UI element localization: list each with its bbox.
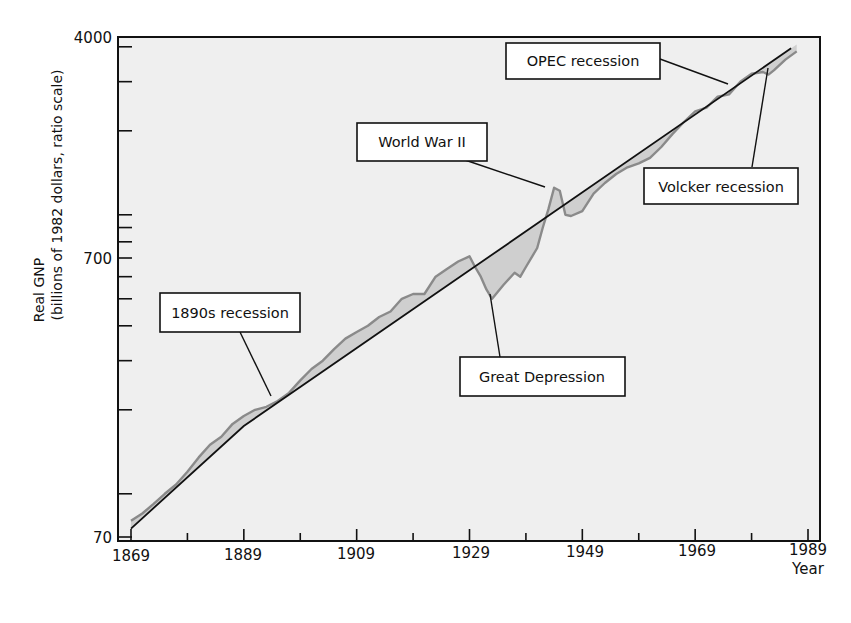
- annotation-volcker: Volcker recession: [644, 168, 798, 204]
- annotation-great-depression: Great Depression: [460, 357, 625, 396]
- x-tick-label-1989: 1989: [789, 541, 827, 559]
- y-tick-label-4000: 4000: [74, 29, 112, 47]
- annotation-1890s: 1890s recession: [160, 293, 300, 332]
- x-tick-label-1929: 1929: [452, 544, 490, 562]
- x-tick-label-1889: 1889: [224, 546, 262, 564]
- y-axis-subtitle: (billions of 1982 dollars, ratio scale): [49, 69, 65, 320]
- x-tick-label-1969: 1969: [678, 542, 716, 560]
- gnp-chart: 4000 700 70 1869 1889 1909 1929 1949 196…: [0, 0, 851, 623]
- svg-text:Great Depression: Great Depression: [479, 369, 605, 385]
- x-axis-title: Year: [791, 560, 825, 578]
- svg-text:1890s recession: 1890s recession: [171, 305, 289, 321]
- y-axis-title: Real GNP: [31, 258, 47, 322]
- svg-text:World War II: World War II: [378, 134, 466, 150]
- y-tick-label-70: 70: [93, 529, 112, 547]
- y-tick-label-700: 700: [83, 250, 112, 268]
- svg-text:OPEC recession: OPEC recession: [527, 53, 640, 69]
- annotation-opec: OPEC recession: [506, 43, 660, 79]
- svg-text:Volcker recession: Volcker recession: [658, 179, 784, 195]
- x-tick-label-1909: 1909: [337, 545, 375, 563]
- x-tick-label-1949: 1949: [566, 543, 604, 561]
- x-tick-label-1869: 1869: [112, 547, 150, 565]
- plot-area: [118, 37, 820, 541]
- annotation-wwii: World War II: [357, 123, 487, 161]
